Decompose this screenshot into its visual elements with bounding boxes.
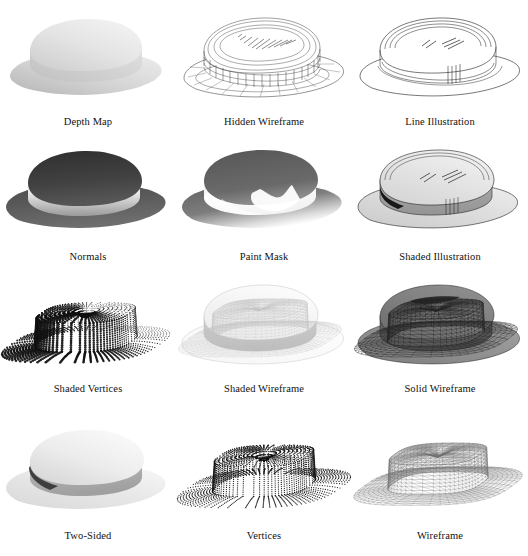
cell-caption: Shaded Wireframe (224, 383, 304, 395)
cell-caption: Depth Map (64, 116, 112, 128)
render-cell-depth-map: Depth Map (0, 0, 176, 139)
rendering-styles-figure: Depth Map (0, 0, 528, 556)
rendering-styles-grid: Depth Map (0, 0, 528, 556)
render-cell-paint-mask: Paint Mask (176, 139, 352, 269)
render-cell-line-illustration: Line Illustration (352, 0, 528, 139)
cell-caption: Paint Mask (240, 251, 289, 263)
render-cell-shaded-wireframe: Shaded Wireframe (176, 269, 352, 408)
render-cell-wireframe: Wireframe (352, 408, 528, 556)
cell-caption: Vertices (247, 530, 282, 542)
render-cell-normals: Normals (0, 139, 176, 269)
hat-render-normals (0, 141, 176, 241)
hat-render-wireframe (352, 414, 528, 526)
cell-caption: Normals (70, 251, 107, 263)
cell-caption: Two-Sided (65, 530, 112, 542)
render-cell-solid-wireframe: Solid Wireframe (352, 269, 528, 408)
hat-render-shaded-illustration (352, 141, 528, 241)
cell-caption: Hidden Wireframe (224, 116, 304, 128)
hat-render-solid-wireframe (352, 273, 528, 377)
cell-caption: Wireframe (417, 530, 463, 542)
cell-caption: Solid Wireframe (404, 383, 475, 395)
hat-render-depth-map (0, 4, 176, 110)
hat-render-shaded-vertices (0, 273, 176, 377)
hat-render-vertices (176, 414, 352, 526)
hat-render-two-sided (0, 414, 176, 526)
render-cell-hidden-wireframe: Hidden Wireframe (176, 0, 352, 139)
render-cell-vertices: Vertices (176, 408, 352, 556)
cell-caption: Shaded Vertices (54, 383, 123, 395)
render-cell-shaded-vertices: Shaded Vertices (0, 269, 176, 408)
render-cell-shaded-illustration: Shaded Illustration (352, 139, 528, 269)
hat-render-shaded-wireframe (176, 273, 352, 377)
render-cell-two-sided: Two-Sided (0, 408, 176, 556)
hat-render-paint-mask (176, 141, 352, 241)
cell-caption: Shaded Illustration (399, 251, 481, 263)
hat-render-line-illustration (352, 4, 528, 110)
hat-render-hidden-wireframe (176, 4, 352, 110)
cell-caption: Line Illustration (405, 116, 475, 128)
